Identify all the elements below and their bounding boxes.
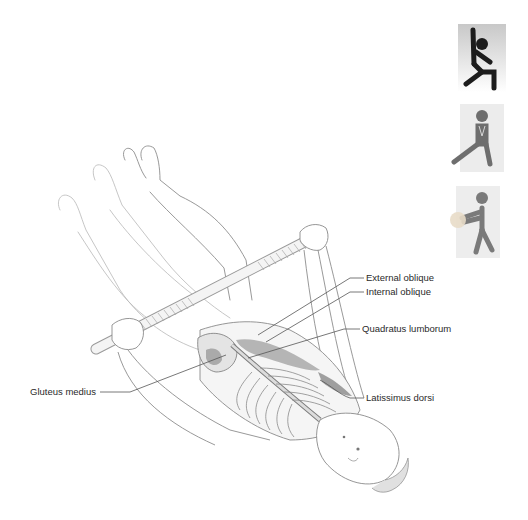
illustration-stage: External oblique Internal oblique Quadra… [0,0,528,520]
label-external-oblique: External oblique [366,272,434,283]
flexibility-stretch-icon [458,24,506,84]
head [317,413,409,492]
exercise-anatomy-illustration [0,0,528,520]
label-quadratus-lumborum: Quadratus lumborum [362,323,451,334]
label-gluteus-medius: Gluteus medius [30,386,96,397]
side-lunge-icon [450,104,498,164]
label-latissimus-dorsi: Latissimus dorsi [366,392,434,403]
label-internal-oblique: Internal oblique [366,286,431,297]
medicine-ball-icon [448,186,496,246]
